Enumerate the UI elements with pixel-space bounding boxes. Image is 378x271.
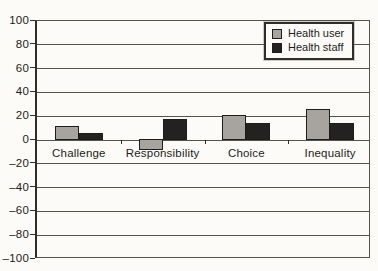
y-tick-label: –40 [0, 180, 29, 194]
y-tick-label: –100 [0, 251, 29, 265]
x-tick-mark [205, 140, 206, 144]
y-tick-label: 40 [0, 84, 29, 98]
y-tick-label: –20 [0, 156, 29, 170]
y-tick-label: 0 [0, 132, 29, 146]
y-tick-label: 100 [0, 13, 29, 27]
x-category-label: Responsibility [121, 146, 205, 160]
bar-health-staff [330, 123, 354, 140]
bar-health-staff [246, 123, 270, 140]
gridline [37, 163, 369, 164]
x-category-label: Challenge [37, 146, 121, 160]
legend-label: Health user [288, 27, 344, 40]
bar-health-user [55, 126, 79, 140]
legend-item: Health user [272, 27, 344, 40]
legend-label: Health staff [288, 41, 343, 54]
legend-swatch [272, 43, 282, 53]
bar-health-user [306, 109, 330, 140]
x-category-label: Choice [205, 146, 289, 160]
bar-chart-figure: 100806040200–20–40–60–80–100 ChallengeRe… [0, 0, 378, 271]
y-tick-label: 60 [0, 61, 29, 75]
x-category-label: Inequality [288, 146, 372, 160]
legend-swatch [272, 29, 282, 39]
bar-health-staff [79, 133, 103, 140]
bar-health-user [222, 115, 246, 140]
gridline [37, 68, 369, 69]
bar-health-staff [163, 119, 187, 140]
y-tick-label: 80 [0, 37, 29, 51]
y-tick-label: –80 [0, 227, 29, 241]
x-tick-mark [288, 140, 289, 144]
legend-item: Health staff [272, 41, 344, 54]
gridline [37, 187, 369, 188]
gridline [37, 92, 369, 93]
y-tick-label: 20 [0, 108, 29, 122]
gridline [37, 235, 369, 236]
x-tick-mark [121, 140, 122, 144]
legend: Health userHealth staff [264, 22, 354, 60]
y-tick-label: –60 [0, 203, 29, 217]
gridline [37, 211, 369, 212]
